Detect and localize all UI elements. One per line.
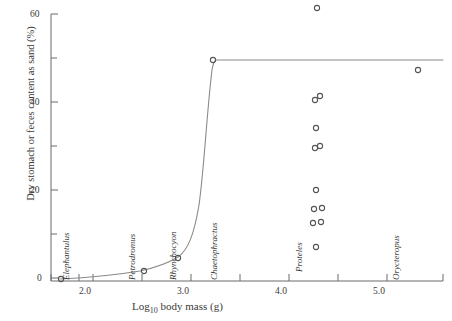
x-axis-label: Log10 body mass (g) <box>132 300 223 315</box>
y-tick-label-60: 60 <box>30 9 40 19</box>
fitted-curve <box>60 60 443 279</box>
point-proteles-7 <box>313 187 318 192</box>
point-proteles-6 <box>317 143 322 148</box>
species-label-petrodromus: Petrodromus <box>127 234 137 280</box>
x-tick-label-5: 5.0 <box>373 286 385 296</box>
point-proteles-12 <box>313 244 318 249</box>
y-axis <box>51 14 58 281</box>
y-axis-label: Dry stomach or feces content as sand (%) <box>25 0 36 239</box>
species-label-elephantulus: Elephantulus <box>61 233 71 281</box>
x-tick-label-3: 3.0 <box>177 286 189 296</box>
x-axis-label-suffix: body mass (g) <box>158 300 223 312</box>
y-tick-label-0: 0 <box>37 273 42 283</box>
x-tick-label-4: 4.0 <box>275 286 287 296</box>
y-tick-label-40: 40 <box>30 97 40 107</box>
point-proteles-1 <box>314 5 319 10</box>
point-chaetophractus <box>210 57 215 62</box>
y-tick-label-20: 20 <box>30 185 40 195</box>
x-tick-label-2: 2.0 <box>79 286 91 296</box>
point-proteles-2 <box>312 97 317 102</box>
point-proteles-4 <box>313 125 318 130</box>
x-axis-label-subscript: 10 <box>150 306 158 315</box>
data-points <box>58 5 420 281</box>
x-axis-label-prefix: Log <box>132 300 150 312</box>
species-label-orycteropus: Orycteropus <box>391 235 401 280</box>
chart-figure: Dry stomach or feces content as sand (%)… <box>0 0 452 321</box>
point-orycteropus <box>415 67 420 72</box>
point-proteles-8 <box>311 206 316 211</box>
point-proteles-3 <box>317 93 322 98</box>
species-label-chaetophractus: Chaetophractus <box>209 223 219 281</box>
species-label-proteles: Proteles <box>294 242 304 272</box>
point-proteles-10 <box>310 220 315 225</box>
point-proteles-11 <box>318 219 323 224</box>
point-proteles-9 <box>319 205 324 210</box>
point-proteles-5 <box>312 145 317 150</box>
species-label-rhynchocyon: Rhynchocyon <box>168 232 178 280</box>
